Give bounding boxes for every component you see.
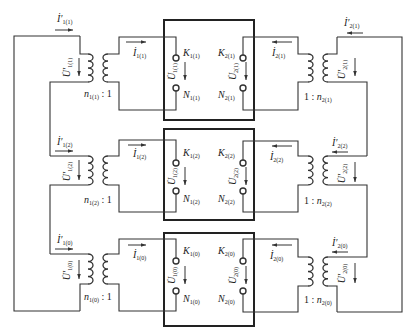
label-n2-0: N2(0)	[218, 294, 235, 305]
label-u2-prime-0: U̇′2(0)	[337, 264, 348, 283]
label-n2-2: N2(2)	[218, 194, 235, 205]
label-u1-prime-1: U̇′1(1)	[62, 58, 73, 77]
label-k2-0: K2(0)	[218, 246, 235, 257]
label-u1-prime-2: U̇′1(2)	[62, 162, 73, 181]
label-ratio-left-0: n1(0) : 1	[84, 292, 112, 303]
label-i1-prime-1: İ′1(1)	[57, 14, 73, 25]
label-u2-0: U̇2(0)	[228, 267, 239, 284]
terminal-n2-0	[240, 288, 246, 294]
label-k2-2: K2(2)	[218, 148, 235, 159]
label-n2-1: N2(1)	[218, 90, 235, 101]
terminal-k1-0	[173, 258, 179, 264]
terminal-n1-1	[173, 85, 179, 91]
sequence-network-diagram: İ′1(1) U̇′1(1) İ1(1) n1(1) : 1 K1(1) N1(…	[0, 0, 415, 334]
label-i2-1: İ2(1)	[272, 48, 285, 59]
label-k1-1: K1(1)	[183, 48, 200, 59]
label-ratio-left-1: n1(1) : 1	[84, 89, 112, 100]
label-i1-prime-0: İ′1(0)	[57, 235, 73, 246]
label-u2-1: U̇2(1)	[228, 63, 239, 80]
terminal-k2-1	[240, 55, 246, 61]
label-ratio-right-2: 1 : n2(2)	[304, 196, 332, 207]
terminal-n2-2	[240, 188, 246, 194]
label-i2-prime-0: İ′2(0)	[332, 238, 348, 249]
label-ratio-left-2: n1(2) : 1	[84, 195, 112, 206]
label-i1-2: İ1(2)	[133, 149, 146, 160]
label-i1-0: İ1(0)	[133, 250, 146, 261]
label-u1-prime-0: U̇′1(0)	[62, 261, 73, 280]
label-k2-1: K2(1)	[218, 48, 235, 59]
terminal-k1-1	[173, 55, 179, 61]
label-n1-1: N1(1)	[183, 90, 200, 101]
label-u1-0: U̇1(0)	[167, 267, 178, 284]
label-n1-0: N1(0)	[183, 294, 200, 305]
label-ratio-right-0: 1 : n2(0)	[304, 295, 332, 306]
label-u1-1: U̇1(1)	[167, 63, 178, 80]
label-k1-0: K1(0)	[183, 246, 200, 257]
label-ratio-right-1: 1 : n2(1)	[304, 92, 332, 103]
terminal-k2-2	[240, 160, 246, 166]
terminal-n1-0	[173, 288, 179, 294]
terminal-k2-0	[240, 258, 246, 264]
terminal-n2-1	[240, 85, 246, 91]
label-u1-2: U̇1(2)	[167, 168, 178, 185]
terminal-k1-2	[173, 160, 179, 166]
label-i2-prime-1: İ′2(1)	[344, 18, 360, 29]
label-i2-0: İ2(0)	[270, 251, 283, 262]
label-k1-2: K1(2)	[183, 148, 200, 159]
label-i2-prime-2: İ′2(2)	[332, 138, 348, 149]
terminal-n1-2	[173, 188, 179, 194]
label-n1-2: N1(2)	[183, 194, 200, 205]
label-i1-1: İ1(1)	[133, 48, 146, 59]
label-u2-prime-2: U̇′2(2)	[337, 164, 348, 183]
label-u2-2: U̇2(2)	[228, 168, 239, 185]
label-i1-prime-2: İ′1(2)	[57, 137, 73, 148]
label-i2-2: İ2(2)	[270, 152, 283, 163]
label-u2-prime-1: U̇′2(1)	[337, 60, 348, 79]
